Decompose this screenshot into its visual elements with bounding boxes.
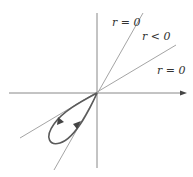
x-axis-arrow-icon [180,91,187,96]
tangent-line-shallow [20,45,176,138]
curve-arrow-down-icon [57,117,64,125]
label-lower-r-zero: r = 0 [157,64,185,77]
label-upper-r-zero: r = 0 [112,16,140,29]
label-r-negative: r < 0 [142,30,170,43]
polar-diagram: r = 0 r < 0 r = 0 [0,0,193,177]
